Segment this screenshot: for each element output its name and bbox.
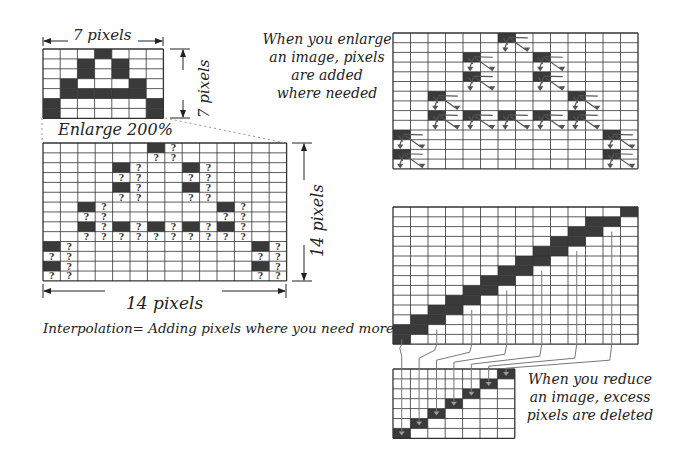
- interpolated-pixel-question-mark: ?: [188, 232, 193, 242]
- dark-pixel: [463, 285, 481, 295]
- dark-pixel: [621, 207, 639, 217]
- interpolated-pixel-question-mark: ?: [119, 173, 124, 183]
- interpolated-pixel-question-mark: ?: [84, 232, 89, 242]
- dark-pixel: [78, 202, 95, 212]
- enlarge-caption-line-1: When you enlarge: [262, 30, 392, 48]
- interpolated-pixel-question-mark: ?: [258, 271, 263, 281]
- reduce-caption-line-3: pixels are deleted: [520, 406, 660, 424]
- dark-pixel: [146, 99, 163, 109]
- dark-pixel: [113, 182, 130, 192]
- dark-pixel: [77, 69, 94, 79]
- interpolated-pixel-question-mark: ?: [136, 193, 141, 203]
- interpolated-pixel-question-mark: ?: [171, 153, 176, 163]
- interpolated-pixel-question-mark: ?: [66, 242, 71, 252]
- enlarge-caption: When you enlarge an image, pixels are ad…: [262, 30, 392, 102]
- interpolated-pixel-question-mark: ?: [119, 193, 124, 203]
- dark-pixel: [78, 222, 95, 232]
- dark-pixel: [533, 246, 551, 256]
- interpolated-pixel-question-mark: ?: [240, 222, 245, 232]
- dark-pixel: [446, 305, 464, 315]
- dark-pixel: [428, 305, 446, 315]
- interpolated-pixel-question-mark: ?: [206, 193, 211, 203]
- dark-pixel: [586, 227, 604, 237]
- interpolated-pixel-question-mark: ?: [275, 242, 280, 252]
- interpolated-pixel-question-mark: ?: [119, 232, 124, 242]
- interpolated-pixel-question-mark: ?: [275, 252, 280, 262]
- interpolated-pixel-question-mark: ?: [49, 252, 54, 262]
- dark-pixel: [551, 236, 569, 246]
- interpolated-pixel-question-mark: ?: [66, 262, 71, 272]
- large-height-label: 14 pixels: [308, 184, 327, 257]
- interpolated-pixel-question-mark: ?: [206, 173, 211, 183]
- dark-pixel: [217, 222, 234, 232]
- dark-pixel: [146, 108, 163, 118]
- dark-pixel: [498, 266, 516, 276]
- interpolated-pixel-question-mark: ?: [101, 222, 106, 232]
- dark-pixel: [217, 202, 234, 212]
- dark-pixel: [252, 261, 269, 271]
- enlarged-14x14-arrow-grid: [393, 33, 638, 169]
- dark-pixel: [95, 49, 112, 59]
- dark-pixel: [112, 69, 129, 79]
- interpolated-pixel-question-mark: ?: [206, 222, 211, 232]
- enlarge-caption-line-4: where needed: [262, 84, 392, 102]
- interpolated-pixel-question-mark: ?: [223, 232, 228, 242]
- dark-pixel: [60, 79, 77, 89]
- interpolated-pixel-question-mark: ?: [66, 252, 71, 262]
- interpolated-pixel-question-mark: ?: [153, 153, 158, 163]
- dark-pixel: [446, 295, 464, 305]
- interpolated-pixel-question-mark: ?: [136, 163, 141, 173]
- interpolated-pixel-question-mark: ?: [101, 202, 106, 212]
- reduce-caption-line-1: When you reduce: [520, 370, 660, 388]
- dark-pixel: [43, 108, 60, 118]
- dark-pixel: [112, 59, 129, 69]
- interpolated-pixel-question-mark: ?: [49, 271, 54, 281]
- dark-pixel: [551, 246, 569, 256]
- dark-pixel: [77, 59, 94, 69]
- dark-pixel: [428, 315, 446, 325]
- dark-pixel: [568, 227, 586, 237]
- dark-pixel: [603, 217, 621, 227]
- dark-pixel: [60, 89, 77, 99]
- interpolated-pixel-question-mark: ?: [171, 143, 176, 153]
- original-7x7-grid: [43, 49, 163, 118]
- diagonal-14x14-grid: [393, 207, 638, 344]
- dark-pixel: [182, 163, 199, 173]
- interpolated-pixel-question-mark: ?: [136, 173, 141, 183]
- dark-pixel: [586, 217, 604, 227]
- small-height-dimension-arrow: [170, 49, 190, 118]
- dark-pixel: [147, 143, 164, 153]
- interpolated-pixel-question-mark: ?: [223, 212, 228, 222]
- dark-pixel: [182, 182, 199, 192]
- interpolated-pixel-question-mark: ?: [188, 193, 193, 203]
- dark-pixel: [516, 266, 534, 276]
- small-height-label: 7 pixels: [195, 59, 213, 118]
- dark-pixel: [463, 295, 481, 305]
- interpolated-pixel-question-mark: ?: [240, 212, 245, 222]
- enlarge-caption-line-2: an image, pixels: [262, 48, 392, 66]
- dark-pixel: [411, 325, 429, 335]
- interpolated-pixel-question-mark: ?: [188, 173, 193, 183]
- large-width-label: 14 pixels: [126, 293, 203, 313]
- interpolated-pixel-question-mark: ?: [240, 202, 245, 212]
- dark-pixel: [113, 163, 130, 173]
- interpolated-pixel-question-mark: ?: [84, 212, 89, 222]
- dark-pixel: [252, 242, 269, 252]
- enlarged-14x14-question-grid: ????????????????????????????????????????…: [43, 143, 287, 281]
- interpolated-pixel-question-mark: ?: [275, 271, 280, 281]
- interpolated-pixel-question-mark: ?: [206, 232, 211, 242]
- interpolated-pixel-question-mark: ?: [136, 232, 141, 242]
- dark-pixel: [516, 256, 534, 266]
- reduce-caption-line-2: an image, excess: [520, 388, 660, 406]
- interpolated-pixel-question-mark: ?: [171, 232, 176, 242]
- dark-pixel: [182, 222, 199, 232]
- dark-pixel: [43, 242, 60, 252]
- dark-pixel: [568, 236, 586, 246]
- enlarge-label: Enlarge 200%: [58, 120, 173, 139]
- dark-pixel: [77, 89, 94, 99]
- dark-pixel: [129, 89, 146, 99]
- interpolated-pixel-question-mark: ?: [206, 163, 211, 173]
- interpolated-pixel-question-mark: ?: [275, 262, 280, 272]
- dark-pixel: [113, 222, 130, 232]
- interpolation-caption: Interpolation= Adding pixels where you n…: [43, 320, 394, 336]
